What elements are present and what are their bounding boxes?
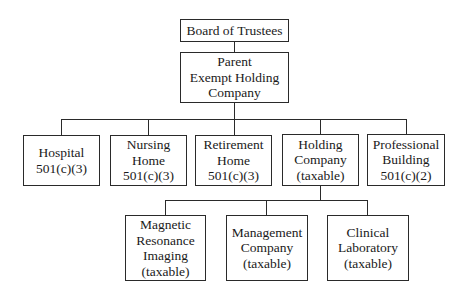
node-clinical-laboratory: Clinical Laboratory (taxable) [327,215,409,281]
connector-holding-down [320,185,321,200]
connector-board-parent [234,41,235,52]
node-label: Professional Building 501(c)(2) [373,137,440,184]
node-nursing-home: Nursing Home 501(c)(3) [110,135,187,186]
node-label: Management Company (taxable) [232,225,302,272]
node-magnetic-resonance-imaging: Magnetic Resonance Imaging (taxable) [125,215,206,281]
connector-to-retirement-home [234,119,235,135]
node-label: Holding Company (taxable) [294,137,347,184]
node-label: Retirement Home 501(c)(3) [204,137,264,184]
node-hospital: Hospital 501(c)(3) [23,135,100,186]
connector-to-professional-building [406,119,407,134]
connector-to-mri [165,200,166,215]
node-label: Nursing Home 501(c)(3) [123,137,174,184]
node-label: Board of Trustees [186,23,282,39]
node-retirement-home: Retirement Home 501(c)(3) [195,135,272,186]
node-management-company: Management Company (taxable) [226,215,308,281]
node-professional-building: Professional Building 501(c)(2) [367,134,445,186]
node-board-of-trustees: Board of Trustees [180,19,289,42]
connector-to-clinical-laboratory [367,200,368,215]
node-label: Magnetic Resonance Imaging (taxable) [136,217,194,279]
node-label: Clinical Laboratory (taxable) [338,225,398,272]
connector-to-nursing-home [148,119,149,135]
node-holding-company: Holding Company (taxable) [282,134,359,186]
node-label: Hospital 501(c)(3) [36,145,87,176]
node-label: Parent Exempt Holding Company [190,54,280,101]
connector-to-management-company [266,200,267,215]
node-parent-exempt-holding-company: Parent Exempt Holding Company [180,52,289,103]
connector-to-holding-company [320,119,321,134]
connector-to-hospital [61,119,62,135]
connector-parent-down [234,102,235,119]
